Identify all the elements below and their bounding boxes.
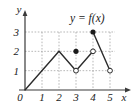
y-axis-arrow-icon [23, 10, 28, 16]
y-axis-label: y [16, 3, 22, 15]
vertical-gridlines [42, 32, 110, 90]
open-point-5-1 [108, 68, 113, 73]
open-point-4-2 [91, 49, 96, 54]
xtick-label-3: 3 [72, 91, 79, 103]
graph-canvas: 1 2 3 0 1 2 3 4 5 y x y = f(x) [0, 0, 140, 110]
y-axis [23, 10, 28, 90]
xtick-label-5: 5 [107, 91, 113, 103]
ytick-label-2: 2 [14, 45, 20, 57]
xtick-label-2: 2 [56, 91, 62, 103]
x-axis-label: x [121, 91, 127, 103]
curve-equation-label: y = f(x) [69, 12, 105, 25]
open-point-3-1 [74, 68, 79, 73]
curve-segment-2 [59, 51, 76, 70]
ytick-label-1: 1 [14, 65, 20, 77]
function-graph-figure: 1 2 3 0 1 2 3 4 5 y x y = f(x) [0, 0, 140, 110]
xtick-label-4: 4 [90, 91, 96, 103]
origin-label: 0 [17, 91, 23, 103]
ytick-label-3: 3 [13, 26, 20, 38]
filled-point-3-2 [73, 49, 78, 54]
curve-segment-3 [76, 51, 93, 70]
function-curve [25, 32, 110, 90]
xtick-label-1: 1 [39, 91, 45, 103]
filled-point-4-3 [90, 29, 95, 34]
